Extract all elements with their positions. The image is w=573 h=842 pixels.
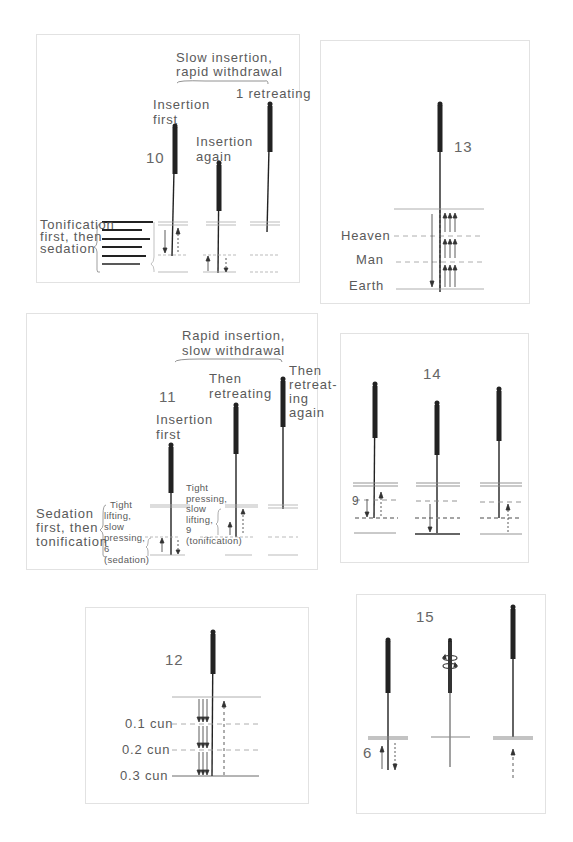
needle-icon <box>386 638 391 771</box>
needle-icon <box>448 638 452 767</box>
figure-15-drawing <box>0 0 573 842</box>
fig15-count-label: 6 <box>363 744 372 761</box>
needle-icon <box>511 605 516 738</box>
figure-15-number: 15 <box>416 608 435 625</box>
